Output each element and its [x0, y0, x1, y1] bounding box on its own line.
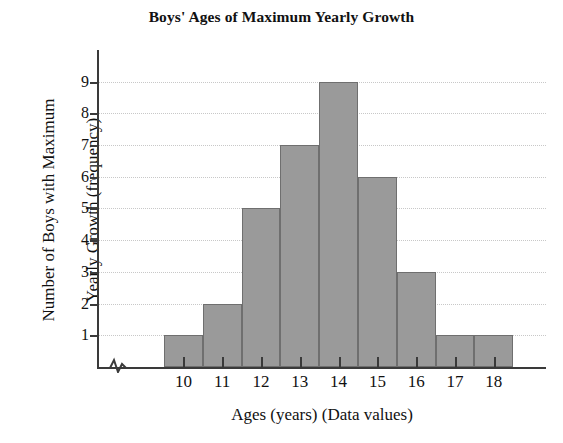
x-tick-label: 11 [202, 372, 242, 392]
x-tick-label: 12 [241, 372, 281, 392]
bar [280, 145, 319, 367]
y-axis-title-line-1: Number of Boys with Maximum [38, 50, 60, 370]
x-tick-label: 10 [163, 372, 203, 392]
x-axis-line [97, 367, 546, 369]
x-axis-title: Ages (years) (Data values) [97, 405, 547, 425]
y-tick-label: 5 [67, 199, 89, 217]
bar [319, 82, 358, 367]
x-tick-label: 16 [396, 372, 436, 392]
plot-area: 123456789 101112131415161718 [97, 50, 546, 368]
bar [242, 208, 281, 367]
bar [397, 272, 436, 367]
y-axis-line [97, 50, 99, 368]
y-tick-label: 1 [67, 326, 89, 344]
chart-title: Boys' Ages of Maximum Yearly Growth [0, 8, 563, 26]
x-tick-label: 14 [319, 372, 359, 392]
x-tick-label: 15 [357, 372, 397, 392]
y-tick-label: 6 [67, 168, 89, 186]
y-tick-label: 3 [67, 263, 89, 281]
axis-break-icon [101, 355, 135, 373]
y-tick-label: 9 [67, 73, 89, 91]
y-tick-label: 4 [67, 231, 89, 249]
y-tick-label: 2 [67, 295, 89, 313]
y-tick-label: 7 [67, 136, 89, 154]
y-axis-title: Number of Boys with Maximum Yearly Growt… [16, 50, 62, 370]
x-tick-label: 13 [280, 372, 320, 392]
bar [358, 177, 397, 367]
histogram-chart: Boys' Ages of Maximum Yearly Growth Numb… [0, 0, 563, 443]
y-tick-label: 8 [67, 104, 89, 122]
x-tick-label: 17 [435, 372, 475, 392]
x-tick-label: 18 [474, 372, 514, 392]
